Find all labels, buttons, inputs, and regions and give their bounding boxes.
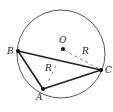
label-c: C bbox=[105, 66, 112, 75]
label-r-oc: R bbox=[82, 47, 89, 56]
point-b bbox=[16, 49, 20, 53]
label-b: B bbox=[7, 47, 14, 56]
point-a bbox=[41, 87, 45, 91]
point-o bbox=[61, 47, 65, 51]
segment-ba bbox=[18, 51, 43, 89]
label-r-a: R bbox=[45, 64, 52, 73]
circumscribed-triangle-diagram: O B C A R R bbox=[0, 0, 113, 112]
point-c bbox=[99, 68, 103, 72]
label-o: O bbox=[59, 36, 66, 45]
diagram-canvas bbox=[0, 0, 113, 112]
label-a: A bbox=[36, 93, 43, 102]
